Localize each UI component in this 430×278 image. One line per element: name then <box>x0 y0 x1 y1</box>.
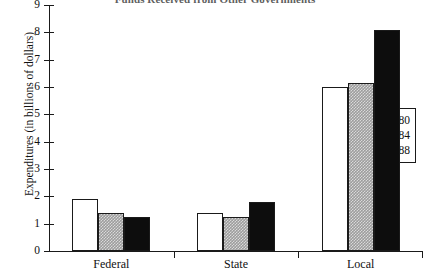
plot-area: 0123456789 FederalStateLocal <box>49 5 423 252</box>
x-axis-label-state: State <box>197 257 275 272</box>
x-tick <box>298 251 299 258</box>
y-tick-7: 7 <box>44 60 54 61</box>
y-tick-label: 5 <box>34 106 40 121</box>
bar-group-state: State <box>197 5 275 251</box>
bar-local-1988 <box>374 30 400 251</box>
y-tick-label: 9 <box>34 0 40 12</box>
y-tick-4: 4 <box>44 142 54 143</box>
bar-federal-1980 <box>72 199 98 251</box>
bar-federal-1984 <box>98 213 124 251</box>
x-tick <box>422 251 423 258</box>
y-tick-label: 3 <box>34 161 40 176</box>
bar-state-1980 <box>197 213 223 251</box>
bar-state-1988 <box>249 202 275 251</box>
y-tick-label: 4 <box>34 134 40 149</box>
y-tick-label: 0 <box>34 243 40 258</box>
bar-federal-1988 <box>124 217 150 251</box>
bar-group-local: Local <box>322 5 400 251</box>
y-tick-label: 7 <box>34 52 40 67</box>
y-axis-label: Expenditures (in billions of dollars) <box>23 0 35 229</box>
y-tick-label: 6 <box>34 79 40 94</box>
x-tick <box>174 251 175 258</box>
x-axis-label-local: Local <box>322 257 400 272</box>
bar-group-federal: Federal <box>72 5 150 251</box>
y-tick-3: 3 <box>44 169 54 170</box>
y-axis-line <box>49 5 50 252</box>
y-tick-2: 2 <box>44 196 54 197</box>
bar-local-1984 <box>348 83 374 251</box>
y-tick-5: 5 <box>44 114 54 115</box>
bar-state-1984 <box>223 217 249 251</box>
bar-chart: Funds Received from Other Governments Ex… <box>0 0 430 278</box>
y-tick-6: 6 <box>44 87 54 88</box>
y-tick-0: 0 <box>44 251 54 252</box>
y-tick-9: 9 <box>44 5 54 6</box>
y-tick-1: 1 <box>44 224 54 225</box>
y-tick-8: 8 <box>44 32 54 33</box>
y-tick-label: 2 <box>34 188 40 203</box>
y-tick-label: 8 <box>34 24 40 39</box>
x-axis-label-federal: Federal <box>72 257 150 272</box>
x-axis-line <box>49 251 423 252</box>
y-tick-label: 1 <box>34 216 40 231</box>
bar-local-1980 <box>322 87 348 251</box>
